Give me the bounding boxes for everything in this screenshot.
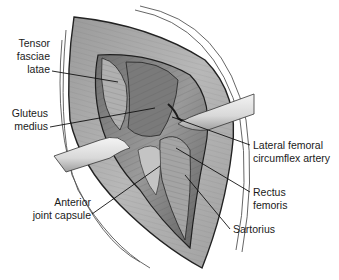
label-gluteus-medius: Gluteus medius <box>12 107 48 133</box>
label-sartorius: Sartorius <box>233 223 275 236</box>
label-rectus-femoris: Rectus femoris <box>253 186 287 212</box>
label-line: Anterior <box>33 196 91 209</box>
label-line: Rectus <box>253 186 287 199</box>
label-line: medius <box>12 120 48 133</box>
label-line: Gluteus <box>12 107 48 120</box>
label-tensor-fasciae-latae: Tensor fasciae latae <box>17 37 50 76</box>
label-line: fasciae <box>17 50 50 63</box>
label-line: femoris <box>253 199 287 212</box>
label-line: joint capsule <box>33 209 91 222</box>
label-lateral-femoral-circumflex-artery: Lateral femoral circumflex artery <box>253 139 330 165</box>
label-line: latae <box>17 63 50 76</box>
label-line: Sartorius <box>233 223 275 236</box>
label-line: Lateral femoral <box>253 139 330 152</box>
label-line: circumflex artery <box>253 152 330 165</box>
label-anterior-joint-capsule: Anterior joint capsule <box>33 196 91 222</box>
label-line: Tensor <box>17 37 50 50</box>
